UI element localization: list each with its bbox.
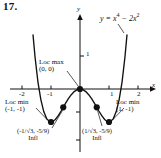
y-axis-label: y bbox=[77, 6, 80, 13]
point-inflection-right bbox=[94, 104, 100, 110]
annotation-inflection-right-word: Infl bbox=[82, 135, 112, 142]
equation-exponent-2: 2 bbox=[136, 12, 139, 18]
ytick-label-1: 1 bbox=[86, 51, 90, 58]
point-inflection-left bbox=[60, 104, 66, 110]
equation-label: y = x4 − 2x2 bbox=[100, 12, 139, 23]
leader-loc-min-left bbox=[36, 108, 48, 120]
annotation-local-minimum-right: Loc min (1, -1) bbox=[116, 99, 140, 114]
xtick-label-minus1: -1 bbox=[47, 91, 53, 98]
annotation-inflection-left: (-1/√3, -5/9) Infl bbox=[17, 128, 49, 142]
point-local-minimum-left bbox=[48, 119, 54, 125]
annotation-inflection-left-word: Infl bbox=[17, 135, 49, 142]
xtick-label-plus1: 1 bbox=[110, 91, 114, 98]
leader-infl-left bbox=[52, 111, 63, 129]
annotation-local-maximum-line2: (0, 0) bbox=[39, 66, 64, 73]
annotation-local-minimum-left: Loc min (-1, -1) bbox=[5, 99, 29, 114]
annotation-local-maximum: Loc max (0, 0) bbox=[39, 59, 64, 74]
annotation-inflection-right: (1/√3, -5/9) Infl bbox=[82, 128, 112, 142]
equation-part-y: y = x bbox=[100, 14, 117, 23]
leader-loc-max bbox=[67, 71, 79, 87]
equation-part-mid: − 2x bbox=[120, 14, 137, 23]
problem-number: 17. bbox=[3, 1, 17, 13]
x-axis-label: x bbox=[152, 82, 155, 89]
point-local-minimum-right bbox=[106, 119, 112, 125]
point-local-maximum bbox=[77, 86, 83, 92]
y-axis-arrow bbox=[77, 14, 83, 20]
leader-equation bbox=[118, 24, 124, 33]
figure-17: 17. y = x4 − 2x2 x y -2 -1 1 2 1 Loc max… bbox=[0, 0, 161, 158]
annotation-local-minimum-left-line2: (-1, -1) bbox=[5, 106, 29, 113]
annotation-local-minimum-right-line2: (1, -1) bbox=[116, 106, 140, 113]
